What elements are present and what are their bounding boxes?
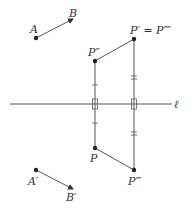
segment-p-ptriple — [95, 148, 134, 170]
point-p — [93, 146, 97, 150]
label-a-prime: A′ — [28, 176, 38, 187]
point-p-double — [93, 59, 97, 63]
vector-ab — [36, 19, 73, 38]
label-p-triple: P‴ — [128, 176, 141, 187]
label-pprime-eq: P′ = P⁗ — [130, 25, 171, 36]
label-b-prime: B′ — [66, 192, 77, 203]
point-a — [34, 36, 38, 40]
point-p-triple — [132, 168, 136, 172]
label-line-l: ℓ — [174, 99, 179, 110]
vector-aprime-bprime — [36, 170, 73, 189]
label-a: A — [30, 24, 38, 35]
label-p: P — [90, 153, 97, 164]
label-p-double: P″ — [88, 47, 100, 58]
label-b: B — [69, 8, 77, 19]
point-a-prime — [34, 168, 38, 172]
segment-pdouble-pprime — [95, 39, 134, 61]
reflection-diagram: A B P′ = P⁗ P″ ℓ P P‴ A′ B′ — [0, 0, 191, 216]
point-p-prime — [132, 37, 136, 41]
